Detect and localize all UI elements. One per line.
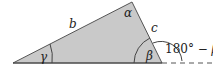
triangle-diagram: b c α γ β 180° − β [0,0,213,74]
side-c-label: c [151,21,158,35]
exterior-angle-minus: − [194,42,212,56]
exterior-angle-label: 180° − β [165,42,213,56]
side-b-label: b [69,17,77,31]
angle-beta-label: β [145,49,153,63]
exterior-angle-beta: β [211,42,213,56]
triangle [13,2,162,63]
exterior-angle-number: 180° [165,42,194,56]
angle-gamma-label: γ [40,50,48,64]
angle-alpha-label: α [124,6,132,20]
